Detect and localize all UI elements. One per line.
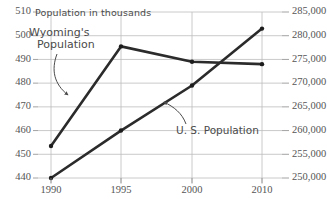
y-right-tick-285000: 285,000 — [292, 6, 326, 17]
data-point-wyoming-1990 — [49, 144, 53, 148]
y-left-tick-490: 490 — [0, 54, 31, 65]
data-point-wyoming-1995 — [119, 44, 123, 48]
y-right-tick-250000: 250,000 — [292, 172, 326, 183]
units-note: Population in thousands — [35, 8, 151, 19]
population-line-chart: 510 500 490 480 470 460 450 440 285,000 … — [0, 0, 327, 199]
x-tick-label-1990: 1990 — [31, 185, 71, 196]
y-right-tick-280000: 280,000 — [292, 30, 326, 41]
y-left-tick-450: 450 — [0, 149, 31, 160]
annotation-arrow-wyoming — [54, 54, 68, 95]
y-left-tick-440: 440 — [0, 172, 31, 183]
data-point-us-1995 — [119, 128, 123, 132]
y-right-tick-275000: 275,000 — [292, 54, 326, 65]
annotation-arrow-us — [164, 102, 186, 124]
right-tick-marks — [282, 12, 289, 178]
x-tick-label-1995: 1995 — [101, 185, 141, 196]
data-point-us-2010 — [260, 26, 264, 30]
series-label-wyoming: Wyoming's Population — [29, 27, 95, 52]
y-left-tick-460: 460 — [0, 125, 31, 136]
series-label-wyoming-line2: Population — [29, 39, 95, 51]
data-point-wyoming-2000 — [190, 60, 194, 64]
x-tick-label-2000: 2000 — [172, 185, 212, 196]
y-left-tick-470: 470 — [0, 101, 31, 112]
data-point-us-2000 — [190, 83, 194, 87]
y-left-tick-480: 480 — [0, 77, 31, 88]
y-right-tick-255000: 255,000 — [292, 149, 326, 160]
x-tick-marks — [51, 178, 262, 183]
y-right-tick-260000: 260,000 — [292, 125, 326, 136]
y-left-tick-510: 510 — [0, 6, 31, 17]
y-right-tick-270000: 270,000 — [292, 77, 326, 88]
y-left-tick-500: 500 — [0, 30, 31, 41]
series-label-us: U. S. Population — [176, 125, 259, 137]
data-point-wyoming-2010 — [260, 62, 264, 66]
x-tick-label-2010: 2010 — [242, 185, 282, 196]
y-right-tick-265000: 265,000 — [292, 101, 326, 112]
